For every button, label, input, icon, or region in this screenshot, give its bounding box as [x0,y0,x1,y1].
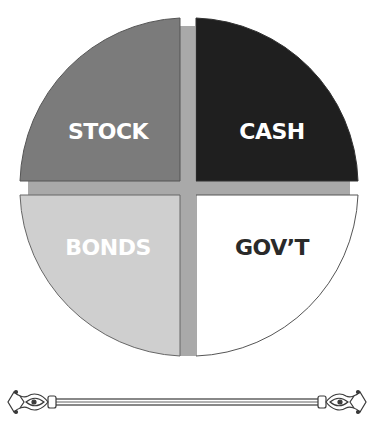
quadrant-govt: GOV’T [196,195,358,356]
quadrant-cash: CASH [196,18,358,181]
label-govt: GOV’T [235,235,310,260]
curtain-rod-decoration [8,391,366,414]
label-bonds: BONDS [65,235,151,260]
left-finial-icon [8,391,48,414]
label-cash: CASH [239,119,304,144]
label-stock: STOCK [68,119,150,144]
quadrant-bonds: BONDS [20,195,180,356]
right-finial-icon [326,391,366,414]
quadrant-diagram: STOCK CASH BONDS GOV’T [0,0,374,431]
quadrant-stock: STOCK [20,18,180,181]
